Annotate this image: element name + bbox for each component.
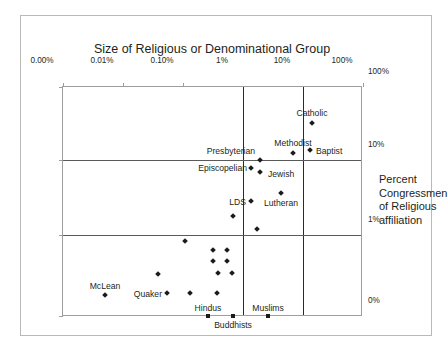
data-point-marker xyxy=(210,247,216,253)
data-point-marker xyxy=(182,238,188,244)
y-axis-tick xyxy=(59,160,63,161)
data-point-label: Episcopelian xyxy=(198,163,247,173)
data-point-label: Presbyterian xyxy=(207,146,255,156)
data-point-marker xyxy=(187,290,193,296)
y-tick-label: 10% xyxy=(368,140,384,149)
data-point-label: Catholic xyxy=(296,108,327,118)
y-axis-caption: PercentCongressmenof Religiousaffiliatio… xyxy=(379,173,448,227)
data-point-label: Baptist xyxy=(316,146,342,156)
data-point-marker xyxy=(307,147,313,153)
data-point-marker xyxy=(248,165,254,171)
data-point-marker xyxy=(257,169,263,175)
data-point-marker xyxy=(231,314,235,318)
y-axis-caption-line: of Religious xyxy=(379,200,448,214)
horizontal-gridline xyxy=(63,160,361,161)
chart-title: Size of Religious or Denominational Grou… xyxy=(62,42,362,57)
y-tick-label: 100% xyxy=(368,67,389,76)
x-axis-tick xyxy=(183,83,184,87)
data-point-label: Methodist xyxy=(274,138,311,148)
data-point-label: Muslims xyxy=(252,303,284,313)
y-axis-tick xyxy=(59,87,63,88)
data-point-label: LDS xyxy=(229,197,246,207)
y-axis-caption-line: Percent xyxy=(379,173,448,187)
data-point-marker xyxy=(102,292,108,298)
vertical-gridline xyxy=(303,87,304,315)
x-tick-label: 0.00% xyxy=(30,56,53,65)
data-point-marker xyxy=(229,270,235,276)
data-point-label: Buddhists xyxy=(214,320,252,330)
data-point-marker xyxy=(164,290,170,296)
data-point-marker xyxy=(206,314,210,318)
y-axis-caption-line: Congressmen xyxy=(379,187,448,201)
x-tick-label: 0.01% xyxy=(90,56,113,65)
y-axis-tick xyxy=(59,316,63,317)
data-point-marker xyxy=(257,157,263,163)
y-axis-caption-line: affiliation xyxy=(379,214,448,228)
data-point-marker xyxy=(224,247,230,253)
data-point-marker xyxy=(215,270,221,276)
data-point-marker xyxy=(214,290,220,296)
data-point-marker xyxy=(210,258,216,264)
data-point-label: Lutheran xyxy=(264,198,298,208)
data-point-label: Jewish xyxy=(268,169,294,179)
y-tick-label: 0% xyxy=(368,296,380,305)
data-point-label: Hindus xyxy=(195,303,222,313)
x-axis-tick xyxy=(63,83,64,87)
data-point-marker xyxy=(248,198,254,204)
data-point-marker xyxy=(309,120,315,126)
horizontal-gridline xyxy=(63,235,361,236)
x-axis-tick xyxy=(123,83,124,87)
data-point-label: McLean xyxy=(90,281,121,291)
plot-area: CatholicBaptistMethodistPresbyterianEpis… xyxy=(62,86,362,316)
x-tick-label: 1% xyxy=(216,56,228,65)
data-point-marker xyxy=(224,258,230,264)
data-point-marker xyxy=(290,150,296,156)
data-point-marker xyxy=(230,213,236,219)
data-point-marker xyxy=(155,271,161,277)
data-point-marker xyxy=(254,226,260,232)
data-point-label: Quaker xyxy=(134,289,162,299)
x-tick-label: 100% xyxy=(332,56,353,65)
data-point-marker xyxy=(278,190,284,196)
x-axis-tick xyxy=(363,83,364,87)
data-point-marker xyxy=(266,314,270,318)
y-axis-tick xyxy=(59,235,63,236)
x-tick-label: 0.10% xyxy=(150,56,173,65)
figure-frame: Size of Religious or Denominational Grou… xyxy=(20,15,432,336)
x-tick-label: 10% xyxy=(274,56,290,65)
